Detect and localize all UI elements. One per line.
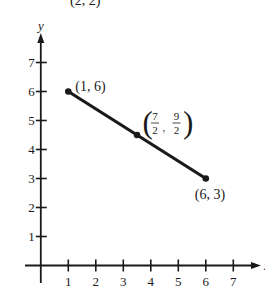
data-point xyxy=(203,175,210,182)
data-point xyxy=(134,132,141,139)
y-tick-label: 4 xyxy=(28,142,35,157)
y-denominator: 2 xyxy=(174,124,180,136)
y-axis-arrow-icon xyxy=(37,33,44,43)
point-labels: (1, 6)(6, 3)()7292, xyxy=(75,79,225,203)
x-axis-label: x xyxy=(263,258,265,273)
y-tick-label: 6 xyxy=(28,84,35,99)
comma: , xyxy=(163,121,166,133)
x-tick-label: 6 xyxy=(203,274,210,289)
point-label-end: (6, 3) xyxy=(195,187,226,203)
point-label-midpoint: ()7292, xyxy=(143,105,194,140)
point-label-start: (1, 6) xyxy=(75,79,106,95)
data-point xyxy=(65,88,72,95)
clipped-top-label: (2, 2) xyxy=(70,0,101,9)
coordinate-plot: (2, 2) xy 12345671234567 (1, 6)(6, 3)()7… xyxy=(0,0,265,291)
x-denominator: 2 xyxy=(152,124,158,136)
x-tick-label: 2 xyxy=(93,274,100,289)
x-tick-label: 3 xyxy=(120,274,127,289)
axis-ticks: 12345671234567 xyxy=(28,55,237,289)
right-paren: ) xyxy=(183,105,193,140)
x-tick-label: 7 xyxy=(230,274,237,289)
y-tick-label: 1 xyxy=(28,229,35,244)
y-axis-label: y xyxy=(36,18,44,33)
x-numerator: 7 xyxy=(152,110,158,122)
y-tick-label: 3 xyxy=(28,171,35,186)
clipped-annotation: (2, 2) xyxy=(70,0,101,9)
x-tick-label: 4 xyxy=(148,274,155,289)
y-tick-label: 2 xyxy=(28,200,35,215)
y-numerator: 9 xyxy=(174,110,180,122)
y-tick-label: 5 xyxy=(28,113,35,128)
x-tick-label: 1 xyxy=(65,274,72,289)
x-axis-arrow-icon xyxy=(251,262,261,269)
axes: xy xyxy=(25,18,265,283)
y-tick-label: 7 xyxy=(28,55,35,70)
x-tick-label: 5 xyxy=(175,274,182,289)
